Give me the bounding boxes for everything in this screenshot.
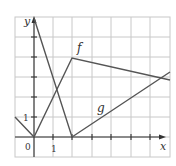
- x-axis-label: x: [160, 140, 167, 153]
- g-curve-label: g: [97, 101, 105, 115]
- y-axis-label: y: [23, 15, 31, 28]
- x-axis-arrow-icon: [159, 135, 166, 140]
- y-tick-label-1: 1: [23, 113, 29, 123]
- origin-label: 0: [25, 142, 31, 152]
- f-curve-label: f: [76, 41, 84, 55]
- axes: [15, 20, 162, 157]
- x-tick-label-1: 1: [51, 144, 57, 154]
- function-graph: y x 0 1 1 f g: [0, 0, 176, 166]
